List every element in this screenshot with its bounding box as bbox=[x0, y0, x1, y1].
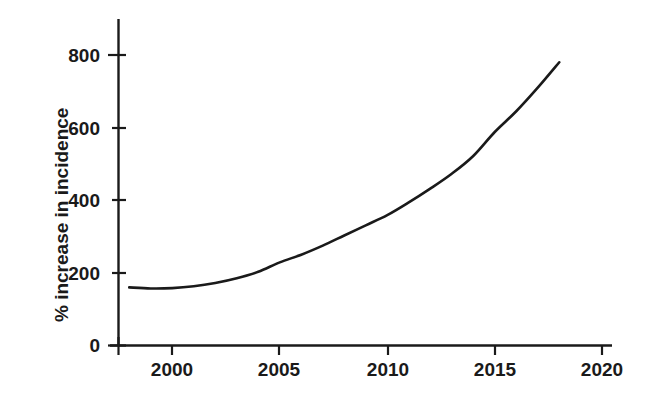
y-tick-label-200: 200 bbox=[40, 264, 100, 283]
y-tick-label-0: 0 bbox=[40, 336, 100, 355]
y-axis-ticks bbox=[108, 55, 126, 346]
chart-figure: % increase in incidence 800 600 400 200 … bbox=[0, 0, 655, 397]
x-tick-label-2005: 2005 bbox=[258, 360, 300, 379]
x-tick-label-2010: 2010 bbox=[367, 360, 409, 379]
y-tick-label-400: 400 bbox=[40, 191, 100, 210]
data-series-line bbox=[129, 62, 559, 288]
x-tick-label-2000: 2000 bbox=[151, 360, 193, 379]
y-axis-title: % increase in incidence bbox=[52, 108, 71, 322]
x-tick-label-2015: 2015 bbox=[474, 360, 516, 379]
x-tick-label-2020: 2020 bbox=[581, 360, 623, 379]
y-tick-label-800: 800 bbox=[40, 46, 100, 65]
y-tick-label-600: 600 bbox=[40, 119, 100, 138]
